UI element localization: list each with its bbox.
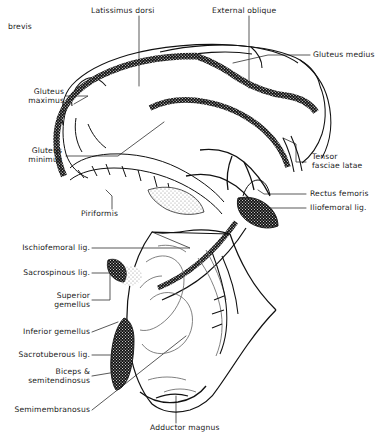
- gluteus-medius-band: [150, 100, 288, 167]
- label-latissimus-dorsi: Latissimus dorsi: [91, 6, 155, 15]
- label-sacrospinous-lig: Sacrospinous lig.: [6, 268, 90, 277]
- label-sacrotuberous-lig: Sacrotuberous lig.: [2, 350, 90, 359]
- upper-left-fascia: [63, 110, 106, 178]
- ischial-tuberosity: [140, 386, 206, 403]
- label-external-oblique: External oblique: [212, 6, 276, 15]
- iliofemoral-patch: [237, 197, 278, 228]
- label-biceps-semitendinosus: Biceps & semitendinosus: [2, 367, 90, 386]
- label-adductor-magnus: Adductor magnus: [150, 423, 220, 432]
- label-gluteus-medius: Gluteus medius: [313, 50, 375, 59]
- gluteus-maximus-band: [57, 56, 316, 176]
- pelvis-outline: [127, 230, 276, 412]
- label-brevis: brevis: [8, 22, 32, 31]
- label-gluteus-minimus: Gluteus minimus: [6, 146, 62, 165]
- label-gluteus-maximus: Gluteus maximus: [8, 87, 64, 106]
- label-piriformis: Piriformis: [81, 209, 118, 218]
- sacrospinous-patch: [107, 259, 142, 286]
- label-ischiofemoral-lig: Ischiofemoral lig.: [6, 243, 90, 252]
- obturator-internus-lines: [212, 252, 238, 354]
- label-inferior-gemellus: Inferior gemellus: [2, 327, 90, 336]
- label-tensor-fasciae-latae: Tensor fasciae latae: [312, 152, 362, 171]
- label-semimembranosus: Semimembranosus: [2, 405, 90, 414]
- figure-canvas: brevis Latissimus dorsi External oblique…: [0, 0, 375, 438]
- label-superior-gemellus: Superior gemellus: [6, 291, 90, 310]
- label-iliofemoral-lig: Iliofemoral lig.: [310, 203, 367, 212]
- label-rectus-femoris: Rectus femoris: [310, 189, 369, 198]
